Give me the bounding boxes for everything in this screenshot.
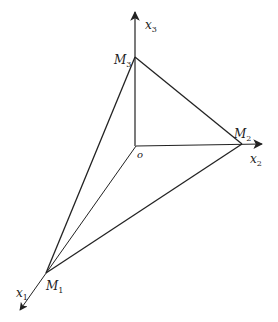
x1-axis-label: x1 xyxy=(16,286,28,302)
edge-m1-m2 xyxy=(46,144,242,273)
x2-axis-label: x2 xyxy=(250,152,262,168)
edge-m3-m1 xyxy=(46,57,135,273)
tetrahedron-diagram: o x3 x2 x1 M3 M2 M1 xyxy=(0,0,278,322)
x2-axis xyxy=(136,144,262,146)
x3-axis-label: x3 xyxy=(145,18,157,34)
point-m3-label: M3 xyxy=(113,53,131,69)
edge-m3-m2 xyxy=(135,57,242,144)
origin-label: o xyxy=(137,149,143,160)
x1-axis xyxy=(20,146,136,310)
point-m2-label: M2 xyxy=(233,127,251,143)
point-m1-label: M1 xyxy=(45,279,63,295)
